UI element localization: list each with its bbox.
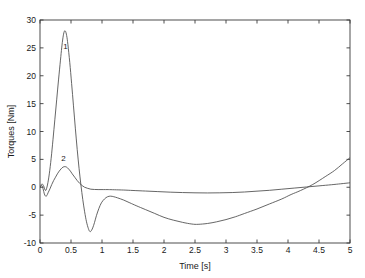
x-tick-label: 1	[100, 245, 105, 255]
y-tick-label: 10	[27, 127, 37, 137]
x-tick-label: 1.5	[127, 245, 139, 255]
y-tick-label: 25	[27, 43, 37, 53]
axes-frame	[40, 20, 350, 243]
x-axis-title: Time [s]	[179, 261, 211, 271]
curve-2-label: 2	[61, 154, 66, 163]
series-line-1	[40, 31, 350, 232]
x-tick-label: 5	[348, 245, 353, 255]
y-axis-title: Torques [Nm]	[6, 105, 16, 159]
torques-line-chart: 00.511.522.533.544.55 -10-5051015202530 …	[0, 0, 365, 278]
x-tick-label: 3	[224, 245, 229, 255]
y-tick-label: -10	[24, 238, 37, 248]
series-line-2	[40, 167, 350, 197]
x-tick-label: 4.5	[313, 245, 325, 255]
tick-marks	[40, 20, 350, 243]
curve-1-label: 1	[63, 42, 68, 51]
x-tick-label: 2.5	[189, 245, 201, 255]
series-group	[40, 31, 350, 232]
y-tick-label: 0	[31, 182, 36, 192]
x-tick-label: 2	[162, 245, 167, 255]
y-tick-label: 15	[27, 99, 37, 109]
y-tick-label: 20	[27, 71, 37, 81]
x-tick-label: 0	[38, 245, 43, 255]
y-tick-label: 5	[31, 154, 36, 164]
curve-annotations: 12	[61, 42, 68, 163]
y-axis-tick-labels: -10-5051015202530	[24, 15, 37, 248]
y-tick-label: 30	[27, 15, 37, 25]
y-tick-label: -5	[28, 210, 36, 220]
x-tick-label: 3.5	[251, 245, 263, 255]
x-tick-label: 4	[286, 245, 291, 255]
chart-figure: 00.511.522.533.544.55 -10-5051015202530 …	[0, 0, 365, 278]
x-axis-tick-labels: 00.511.522.533.544.55	[38, 245, 353, 255]
x-tick-label: 0.5	[65, 245, 77, 255]
